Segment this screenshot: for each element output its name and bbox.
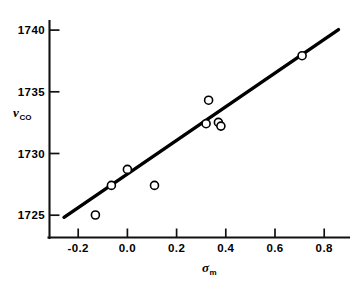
data-point (123, 165, 131, 173)
x-axis-title: σm (202, 260, 217, 277)
y-axis-tick-labels: 1740 1735 1730 1725 (18, 24, 45, 221)
x-tick-label--0.2: -0.2 (67, 242, 88, 254)
x-tick-label-0.0: 0.0 (119, 242, 136, 254)
data-point (151, 181, 159, 189)
x-tick-label-0.6: 0.6 (266, 242, 283, 254)
y-tick-label-1730: 1730 (18, 148, 45, 160)
linear-fit-line (64, 30, 339, 218)
data-point (205, 96, 213, 104)
y-tick-label-1735: 1735 (18, 86, 45, 98)
data-point (202, 120, 210, 128)
data-point (298, 52, 306, 60)
data-point (217, 122, 225, 130)
x-tick-label-0.8: 0.8 (316, 242, 333, 254)
x-axis-tick-labels: -0.2 0.0 0.2 0.4 0.6 0.8 (67, 242, 333, 254)
chart-figure: 1740 1735 1730 1725 -0.2 0.0 0.2 0.4 0.6… (0, 0, 355, 282)
x-axis-ticks (78, 229, 324, 238)
y-axis-title-subscript: CO (19, 113, 31, 122)
y-tick-label-1725: 1725 (18, 209, 45, 221)
scatter-plot-canvas: 1740 1735 1730 1725 -0.2 0.0 0.2 0.4 0.6… (0, 0, 355, 282)
x-axis-title-subscript: m (210, 268, 217, 277)
y-tick-label-1740: 1740 (18, 24, 45, 36)
x-tick-label-0.4: 0.4 (217, 242, 234, 254)
y-axis-title-symbol: ν (13, 105, 19, 120)
data-points (91, 52, 306, 219)
y-axis-ticks (50, 30, 60, 215)
y-axis-title: νCO (13, 105, 31, 122)
data-point (107, 181, 115, 189)
data-point (91, 211, 99, 219)
x-tick-label-0.2: 0.2 (168, 242, 185, 254)
